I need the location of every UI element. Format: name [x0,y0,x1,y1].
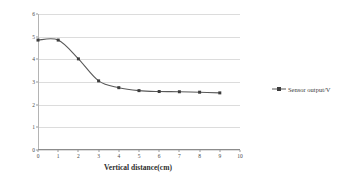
y-tick-label: 5 [32,34,35,40]
x-tick-label: 3 [97,153,100,159]
x-tick-mark [118,150,119,152]
y-tick-label: 2 [32,102,35,108]
data-point-marker [117,86,120,89]
y-tick-label: 6 [32,11,35,17]
y-tick-label: 0 [32,147,35,153]
x-tick-mark [179,150,180,152]
x-tick-label: 2 [77,153,80,159]
y-tick-label: 3 [32,79,35,85]
x-tick-label: 4 [117,153,120,159]
x-tick-mark [58,150,59,152]
plot-area: 0123456 012345678910 [38,14,240,150]
x-tick-label: 10 [237,153,243,159]
y-tick-label: 1 [32,124,35,130]
data-point-marker [218,91,221,94]
x-tick-mark [38,150,39,152]
x-axis-title: Vertical distance(cm) [38,163,238,172]
data-point-marker [37,39,40,42]
y-tick-label: 4 [32,56,35,62]
x-tick-mark [98,150,99,152]
x-tick-label: 9 [218,153,221,159]
legend-label-sensor-output: Sensor output/V [288,86,330,93]
data-point-marker [97,79,100,82]
x-tick-mark [199,150,200,152]
series-path [38,39,220,93]
x-tick-label: 7 [178,153,181,159]
chart-legend: Sensor output/V [272,85,330,93]
data-point-marker [178,90,181,93]
x-tick-label: 6 [158,153,161,159]
x-tick-mark [219,150,220,152]
data-point-marker [57,39,60,42]
data-point-marker [198,91,201,94]
x-tick-mark [78,150,79,152]
legend-line-marker-icon [272,85,286,93]
data-point-marker [158,90,161,93]
data-point-marker [77,57,80,60]
x-tick-label: 0 [37,153,40,159]
x-tick-label: 1 [57,153,60,159]
chart-container: Sensor output (V) 0123456 012345678910 V… [0,0,355,184]
x-tick-label: 8 [198,153,201,159]
x-tick-label: 5 [138,153,141,159]
data-point-marker [138,89,141,92]
series-line-sensor-output [38,14,240,150]
x-tick-mark [240,150,241,152]
x-tick-mark [159,150,160,152]
x-tick-mark [139,150,140,152]
